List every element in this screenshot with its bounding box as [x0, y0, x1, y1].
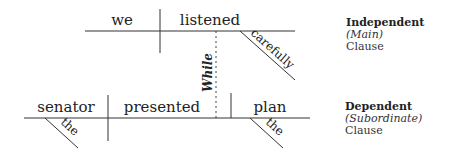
legend-dependent-label: Clause	[345, 125, 422, 137]
legend-independent: Independent (Main) Clause	[346, 17, 424, 53]
legend-dependent: Dependent (Subordinate) Clause	[345, 101, 422, 137]
word-presented: presented	[124, 98, 201, 116]
word-carefully: carefully	[248, 26, 297, 72]
word-we: we	[111, 11, 133, 29]
word-senator: senator	[37, 98, 95, 116]
word-while: While	[201, 53, 215, 92]
word-plan: plan	[253, 98, 286, 116]
legend-independent-label: Clause	[346, 41, 424, 53]
word-listened: listened	[180, 11, 241, 29]
